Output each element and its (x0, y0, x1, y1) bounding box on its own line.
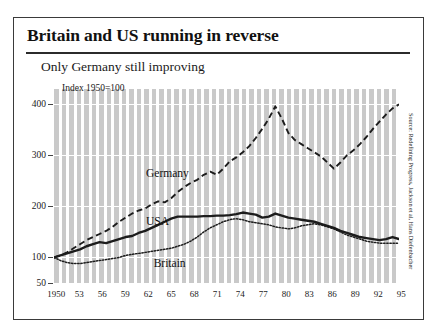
series-line-germany (54, 104, 399, 257)
y-axis-tick (48, 257, 53, 258)
y-axis-tick-label: 200 (20, 201, 46, 211)
x-axis-tick-label: 95 (386, 289, 416, 299)
series-label-usa: USA (146, 215, 169, 227)
y-axis-tick-label: 50 (20, 278, 46, 288)
y-axis-tick-label: 300 (20, 150, 46, 160)
chart-subtitle: Only Germany still improving (41, 59, 205, 75)
y-axis-tick (48, 283, 53, 284)
series-line-britain (54, 219, 399, 264)
plot-area: Index 1950=100 50100200300400 1950535659… (54, 89, 399, 283)
title-divider (26, 52, 410, 54)
y-axis-tick (48, 104, 53, 105)
source-text: Source: Redefining Progress, Jackson et … (408, 113, 415, 269)
chart-figure: Britain and US running in reverse Only G… (13, 17, 424, 320)
series-label-britain: Britain (154, 257, 186, 269)
y-axis-tick (48, 155, 53, 156)
series-lines (54, 89, 399, 283)
source-credit: Source: Redefining Progress, Jackson et … (409, 113, 421, 263)
gridline (54, 283, 399, 284)
y-axis-tick-label: 100 (20, 252, 46, 262)
chart-title: Britain and US running in reverse (27, 25, 279, 46)
y-axis-tick-label: 400 (20, 99, 46, 109)
series-label-germany: Germany (146, 167, 189, 179)
y-axis-tick (48, 206, 53, 207)
